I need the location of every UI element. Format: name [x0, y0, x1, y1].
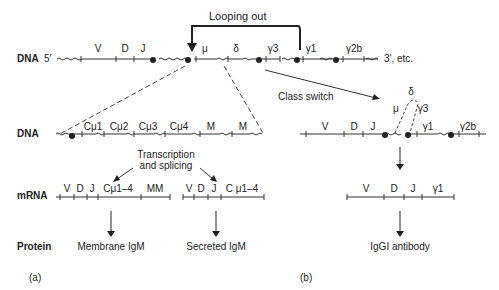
row-label-protein: Protein [17, 241, 51, 253]
panel-label-a: (a) [29, 272, 41, 284]
b-mrna-gamma1: γ1 [433, 183, 444, 195]
loop-mu: μ [393, 103, 399, 115]
mrna-mem-mm: MM [147, 183, 164, 195]
row-label-mrna: mRNA [17, 190, 48, 202]
class-switch-label: Class switch [278, 91, 334, 103]
b-dna-v: V [322, 121, 329, 133]
segment-gamma3: γ3 [268, 43, 279, 55]
protein-iggi-antibody: IgGI antibody [370, 241, 429, 253]
five-prime-label: 5′ [44, 53, 51, 65]
panel-label-b: (b) [300, 272, 312, 284]
b-dna-gamma1: γ1 [423, 121, 434, 133]
segment-d: D [121, 43, 128, 55]
mrna-mem-d: D [76, 183, 83, 195]
segment-m2: M [239, 121, 247, 133]
three-prime-label: 3′, etc. [384, 53, 413, 65]
loop-delta: δ [408, 86, 414, 98]
b-dna-j: J [371, 121, 376, 133]
segment-cmu3: Cμ3 [139, 121, 158, 133]
mrna-sec-v: V [186, 183, 193, 195]
protein-secreted-igm: Secreted IgM [186, 241, 245, 253]
mrna-mem-v: V [64, 183, 71, 195]
row-label-dna-mid: DNA [17, 128, 39, 140]
looping-out-label: Looping out [209, 10, 267, 22]
segment-mu: μ [202, 43, 208, 55]
splicing-label: and splicing [140, 160, 193, 172]
segment-gamma2b: γ2b [346, 43, 362, 55]
b-mrna-v: V [363, 183, 370, 195]
b-dna-gamma2b: γ2b [460, 121, 476, 133]
b-mrna-j: J [411, 183, 416, 195]
segment-delta: δ [233, 43, 239, 55]
loop-gamma3: γ3 [418, 103, 429, 115]
segment-j: J [141, 43, 146, 55]
segment-cmu1: Cμ1 [84, 121, 103, 133]
b-dna-d: D [350, 121, 357, 133]
segment-m1: M [207, 121, 215, 133]
segment-gamma1: γ1 [306, 43, 317, 55]
mrna-sec-d: D [197, 183, 204, 195]
mrna-sec-j: J [212, 183, 217, 195]
segment-cmu4: Cμ4 [170, 121, 189, 133]
mrna-mem-j: J [90, 183, 95, 195]
b-mrna-d: D [390, 183, 397, 195]
segment-v: V [95, 43, 102, 55]
segment-cmu2: Cμ2 [110, 121, 129, 133]
protein-membrane-igm: Membrane IgM [77, 241, 144, 253]
mrna-mem-cmu: Cμ1–4 [103, 183, 133, 195]
mrna-sec-cmu: C μ1–4 [226, 183, 258, 195]
row-label-dna-top: DNA [17, 53, 39, 65]
